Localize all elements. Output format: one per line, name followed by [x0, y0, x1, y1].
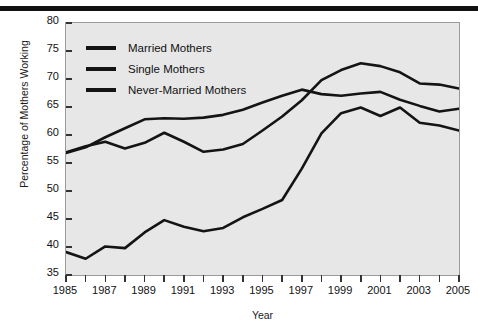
- legend-swatch-icon: [86, 88, 116, 92]
- x-tick-mark: [163, 275, 165, 282]
- legend-swatch-icon: [86, 46, 116, 50]
- legend-label: Single Mothers: [128, 63, 205, 75]
- chart-figure: Percentage of Mothers Working Year Marri…: [0, 0, 478, 335]
- x-tick-mark: [65, 275, 67, 282]
- legend-label: Married Mothers: [128, 42, 212, 54]
- y-tick-label: 55: [25, 155, 59, 166]
- x-tick-mark: [222, 275, 224, 282]
- y-tick-label: 50: [25, 183, 59, 194]
- y-tick-label: 45: [25, 211, 59, 222]
- x-axis-title: Year: [65, 309, 460, 321]
- y-tick-label: 75: [25, 43, 59, 54]
- y-tick-label: 60: [25, 127, 59, 138]
- x-tick-mark: [262, 275, 264, 282]
- y-tick-label: 70: [25, 71, 59, 82]
- y-tick-label: 65: [25, 99, 59, 110]
- y-tick-label: 35: [25, 267, 59, 278]
- x-tick-mark: [399, 275, 401, 282]
- legend-label: Never-Married Mothers: [128, 84, 246, 96]
- legend-item-single: Single Mothers: [86, 58, 246, 79]
- x-tick-mark: [380, 275, 382, 282]
- x-tick-mark: [419, 275, 421, 282]
- top-horizontal-rule: [0, 6, 478, 11]
- x-tick-mark: [340, 275, 342, 282]
- legend-item-never-married: Never-Married Mothers: [86, 79, 246, 100]
- chart-legend: Married Mothers Single Mothers Never-Mar…: [86, 37, 246, 100]
- x-tick-mark: [124, 275, 126, 282]
- x-tick-mark: [321, 275, 323, 282]
- x-tick-mark: [281, 275, 283, 282]
- legend-swatch-icon: [86, 67, 116, 71]
- legend-item-married: Married Mothers: [86, 37, 246, 58]
- x-tick-mark: [144, 275, 146, 282]
- plot-area: Married Mothers Single Mothers Never-Mar…: [65, 22, 460, 276]
- x-tick-label: 2005: [435, 284, 478, 296]
- x-tick-mark: [242, 275, 244, 282]
- y-axis-title: Percentage of Mothers Working: [18, 0, 30, 234]
- x-tick-mark: [203, 275, 205, 282]
- x-tick-mark: [439, 275, 441, 282]
- x-tick-mark: [458, 275, 460, 282]
- x-tick-mark: [85, 275, 87, 282]
- x-tick-mark: [105, 275, 107, 282]
- y-tick-label: 40: [25, 239, 59, 250]
- x-tick-mark: [183, 275, 185, 282]
- x-tick-mark: [360, 275, 362, 282]
- y-tick-label: 80: [25, 15, 59, 26]
- x-tick-mark: [301, 275, 303, 282]
